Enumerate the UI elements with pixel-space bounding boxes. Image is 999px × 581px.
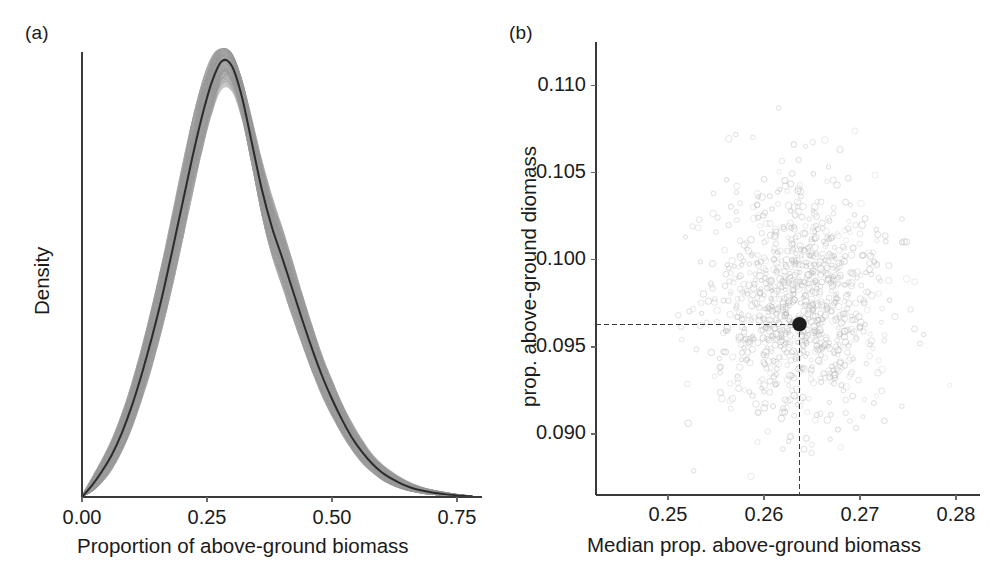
panel-b: (b) prop. above-ground diomass Median pr… [499, 0, 999, 581]
observed-estimate-point [792, 317, 806, 331]
scatter-point-cloud [676, 106, 952, 480]
panel-b-y-axis-title: prop. above-ground diomass [517, 146, 541, 407]
panel-a-x-tick-label: 0.00 [37, 506, 127, 529]
density-band-texture [82, 34, 472, 498]
panel-b-y-tick-label: 0.095 [514, 334, 586, 357]
figure-root: (a) Density Proportion of above-ground b… [0, 0, 999, 581]
panel-b-y-tick-label: 0.090 [514, 421, 586, 444]
panel-a-plot [0, 0, 500, 581]
panel-a: (a) Density Proportion of above-ground b… [0, 0, 500, 581]
panel-a-x-axis-title: Proportion of above-ground biomass [77, 534, 409, 558]
panel-b-x-tick-label: 0.26 [719, 503, 809, 526]
panel-b-x-tick-label: 0.27 [815, 503, 905, 526]
panel-a-y-axis-title: Density [30, 247, 54, 315]
panel-b-y-tick-label: 0.110 [514, 73, 586, 96]
panel-b-y-tick-label: 0.100 [514, 247, 586, 270]
panel-a-x-tick-label: 0.75 [412, 506, 502, 529]
panel-b-y-tick-label: 0.105 [514, 160, 586, 183]
panel-b-x-tick-label: 0.25 [623, 503, 713, 526]
panel-b-x-tick-label: 0.28 [911, 503, 999, 526]
panel-b-x-axis-title: Median prop. above-ground biomass [587, 533, 921, 557]
density-median-line [82, 60, 472, 497]
panel-a-x-tick-label: 0.25 [162, 506, 252, 529]
panel-a-x-tick-label: 0.50 [287, 506, 377, 529]
